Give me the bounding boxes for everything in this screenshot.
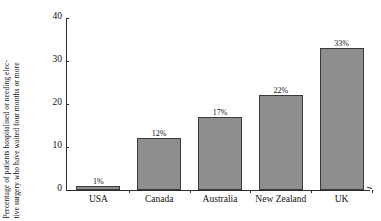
bar-usa: 1% — [76, 186, 120, 190]
y-axis-label-line-2: tive surgery who have waited four months… — [13, 63, 21, 219]
bar-canada: 12% — [137, 138, 181, 190]
y-axis-label: Percentage of patients hospitalised or n… — [0, 0, 26, 221]
y-tick-mark — [66, 61, 69, 62]
bar-value-label: 12% — [152, 130, 167, 138]
y-tick-label: 0 — [57, 184, 62, 194]
plot-area: 010203040 1%12%17%22%33% USACanadaAustra… — [66, 18, 374, 192]
category-label-uk: UK — [335, 195, 349, 205]
category-label-canada: Canada — [145, 195, 174, 205]
x-axis-end-cap — [367, 186, 372, 188]
category-label-new-zealand: New Zealand — [255, 195, 306, 205]
bar-value-label: 33% — [334, 40, 349, 48]
y-tick-mark — [66, 190, 69, 191]
x-tick-mark — [190, 190, 191, 193]
y-tick-label: 40 — [53, 12, 63, 22]
bar-value-label: 22% — [273, 87, 288, 95]
y-tick-mark — [66, 147, 69, 148]
y-tick-label: 20 — [53, 98, 63, 108]
category-label-australia: Australia — [203, 195, 238, 205]
y-tick-mark — [66, 104, 69, 105]
bar-new-zealand: 22% — [259, 95, 303, 190]
bar-value-label: 1% — [93, 178, 104, 186]
bar-value-label: 17% — [213, 109, 228, 117]
bar-australia: 17% — [198, 117, 242, 190]
category-label-usa: USA — [89, 195, 108, 205]
bar-uk: 33% — [320, 48, 364, 190]
x-tick-mark — [250, 190, 251, 193]
y-tick-label: 30 — [53, 55, 63, 65]
y-tick-mark — [66, 18, 69, 19]
x-axis-line — [66, 190, 370, 191]
x-tick-mark — [372, 190, 373, 193]
y-axis-label-line-1: Percentage of patients hospitalised or n… — [3, 60, 11, 219]
bar-chart: Percentage of patients hospitalised or n… — [0, 0, 381, 221]
x-tick-mark — [129, 190, 130, 193]
y-tick-label: 10 — [53, 141, 63, 151]
x-tick-mark — [311, 190, 312, 193]
